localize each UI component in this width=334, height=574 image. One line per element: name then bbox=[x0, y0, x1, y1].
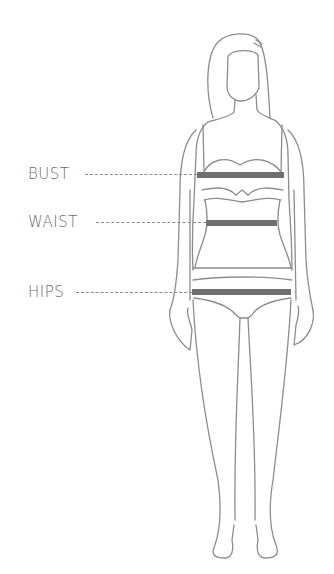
measurement-diagram: BUST WAIST HIPS bbox=[0, 0, 334, 574]
bust-leader-line bbox=[85, 174, 197, 175]
hips-leader-line bbox=[76, 292, 192, 293]
waist-measurement-band bbox=[206, 220, 277, 226]
bust-label: BUST bbox=[28, 165, 70, 183]
waist-label: WAIST bbox=[28, 213, 78, 231]
waist-leader-line bbox=[96, 222, 206, 223]
hips-label: HIPS bbox=[28, 283, 64, 301]
bust-measurement-band bbox=[197, 172, 284, 178]
hips-measurement-band bbox=[192, 289, 291, 295]
